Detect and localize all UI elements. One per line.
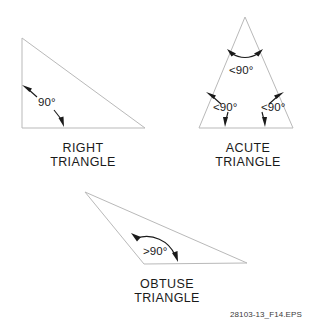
- acute-triangle-caption-line1: ACUTE: [226, 141, 270, 155]
- right-triangle-outline: [22, 38, 145, 128]
- right-angle-label: 90°: [38, 96, 56, 108]
- obtuse-arrowhead-lower: [172, 251, 178, 262]
- acute-triangle-caption-line2: TRIANGLE: [215, 155, 281, 169]
- acute-right-label: <90°: [261, 101, 286, 113]
- figure-canvas: 90° RIGHT TRIANGLE <90° <90° <90° ACUT: [0, 0, 328, 330]
- right-angle-arrowhead-horizontal: [59, 117, 65, 128]
- triangle-types-figure: 90° RIGHT TRIANGLE <90° <90° <90° ACUT: [0, 0, 328, 330]
- obtuse-triangle-caption-line2: TRIANGLE: [134, 291, 200, 305]
- obtuse-angle-label: >90°: [143, 245, 168, 257]
- obtuse-arrowhead-upper: [131, 233, 141, 242]
- figure-id-label: 28103-13_F14.EPS: [230, 310, 302, 319]
- acute-right-arrowhead-base: [262, 117, 267, 127]
- right-triangle-caption-line2: TRIANGLE: [50, 155, 116, 169]
- right-triangle-caption-line1: RIGHT: [63, 141, 104, 155]
- acute-apex-label: <90°: [229, 64, 254, 76]
- right-triangle-group: 90° RIGHT TRIANGLE: [22, 38, 145, 169]
- obtuse-triangle-caption-line1: OBTUSE: [140, 277, 194, 291]
- acute-left-label: <90°: [213, 101, 238, 113]
- obtuse-triangle-group: >90° OBTUSE TRIANGLE: [85, 192, 247, 305]
- acute-left-arrowhead-base: [223, 117, 228, 127]
- acute-triangle-group: <90° <90° <90° ACUTE TRIANGLE: [199, 17, 293, 169]
